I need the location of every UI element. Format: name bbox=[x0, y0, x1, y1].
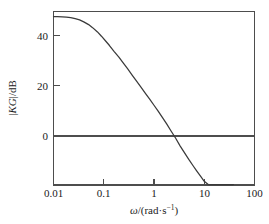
y-tick-labels: 40 20 0 bbox=[37, 30, 49, 143]
y-axis-title-kg: KG bbox=[6, 98, 18, 114]
x-tick-label-1: 1 bbox=[151, 187, 157, 199]
magnitude-curve bbox=[54, 17, 234, 185]
x-tick-labels: 0.01 0.1 1 10 100 bbox=[44, 187, 263, 199]
y-tick-marks bbox=[54, 36, 60, 137]
y-tick-label-0: 0 bbox=[43, 130, 49, 142]
x-axis-title-unit: /(rad·s bbox=[138, 204, 167, 217]
bode-magnitude-figure: 40 20 0 0.01 0.1 1 10 100 ω/(rad·s−1) |K… bbox=[0, 0, 269, 224]
y-tick-label-20: 20 bbox=[37, 80, 49, 92]
y-axis-title: |KG|/dB bbox=[6, 80, 18, 116]
plot-border bbox=[54, 12, 255, 186]
plot-frame bbox=[54, 12, 255, 186]
chart-canvas: 40 20 0 0.01 0.1 1 10 100 ω/(rad·s−1) |K… bbox=[0, 0, 269, 224]
x-axis-title-close: ) bbox=[174, 204, 178, 217]
y-axis-title-unit: /dB bbox=[6, 80, 18, 96]
x-axis-title: ω/(rad·s−1) bbox=[130, 203, 178, 218]
x-axis-title-exponent: −1 bbox=[166, 203, 174, 212]
x-tick-label-0.01: 0.01 bbox=[44, 187, 63, 199]
x-tick-label-0.1: 0.1 bbox=[97, 187, 111, 199]
x-tick-label-100: 100 bbox=[246, 187, 263, 199]
x-tick-label-10: 10 bbox=[199, 187, 211, 199]
y-tick-label-40: 40 bbox=[37, 30, 49, 42]
